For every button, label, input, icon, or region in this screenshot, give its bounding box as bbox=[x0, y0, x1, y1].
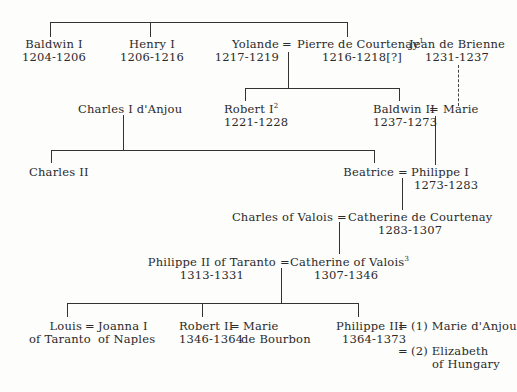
marriage-sign: = bbox=[282, 38, 292, 51]
line-valois-courtenay-child bbox=[339, 222, 340, 254]
person-charles2: Charles II bbox=[29, 166, 89, 179]
line-robert2 bbox=[202, 303, 203, 317]
person-henry1: Henry I 1206-1216 bbox=[120, 38, 184, 64]
person-marie-bourbon: Marie de Bourbon bbox=[243, 320, 311, 346]
marriage-sign: = bbox=[398, 166, 408, 179]
person-robert1: Robert I2 1221-1228 bbox=[224, 103, 288, 129]
line-louis bbox=[67, 303, 68, 317]
line-gen1-siblings bbox=[50, 22, 348, 23]
person-baldwin2: Baldwin II 1237-1273 bbox=[373, 103, 437, 129]
line-philippe2-children bbox=[281, 268, 282, 303]
person-yolande: Yolande 1217-1219 bbox=[215, 38, 279, 64]
line-charles1-children-bar bbox=[51, 150, 375, 151]
person-joanna: Joanna I of Naples bbox=[98, 320, 155, 346]
person-pierre: Pierre de Courtenay1 1216-1218[?] bbox=[297, 38, 424, 64]
line-beatrice bbox=[374, 150, 375, 163]
line-yolande bbox=[347, 22, 348, 37]
line-beatrice-philippe-child bbox=[402, 178, 403, 210]
line-jean-marie-dashed bbox=[458, 65, 459, 106]
person-jean: Jean de Brienne 1231-1237 bbox=[409, 38, 505, 64]
person-charles-valois: Charles of Valois bbox=[232, 211, 333, 224]
person-beatrice: Beatrice bbox=[343, 166, 394, 179]
person-marie: Marie bbox=[443, 103, 479, 116]
person-catherine-courtenay: Catherine de Courtenay 1283-1307 bbox=[348, 211, 493, 237]
line-charles2 bbox=[51, 150, 52, 163]
line-yolande-pierre-children bbox=[288, 52, 289, 88]
marriage-sign: = bbox=[398, 345, 408, 358]
person-louis: Louis of Taranto bbox=[29, 320, 82, 346]
marriage-sign: = bbox=[398, 320, 408, 333]
line-philippe3 bbox=[358, 303, 359, 317]
line-philippe2-children-bar bbox=[67, 303, 359, 304]
person-catherine-valois: Catherine of Valois3 1307-1346 bbox=[290, 256, 409, 282]
line-robert1 bbox=[245, 88, 246, 101]
marriage-sign: = bbox=[230, 320, 240, 333]
marriage-sign: = bbox=[337, 211, 347, 224]
person-charles1: Charles I d'Anjou bbox=[78, 103, 182, 116]
marriage-sign: = bbox=[85, 320, 95, 333]
line-baldwin2 bbox=[399, 88, 400, 101]
marriage-sign: = bbox=[280, 256, 290, 269]
line-baldwin1 bbox=[50, 22, 51, 37]
line-charles1-children bbox=[123, 115, 124, 150]
line-yolande-children bbox=[245, 88, 400, 89]
person-baldwin1: Baldwin I 1204-1206 bbox=[22, 38, 86, 64]
person-philippe3: Philippe III 1364-1373 bbox=[336, 320, 406, 346]
marriage-sign: = bbox=[429, 103, 439, 116]
line-henry1 bbox=[150, 22, 151, 37]
person-marie-anjou: (1) Marie d'Anjou bbox=[411, 320, 517, 333]
person-philippe2: Philippe II of Taranto 1313-1331 bbox=[148, 256, 276, 282]
person-philippe1: Philippe I 1273-1283 bbox=[411, 166, 478, 192]
person-elizabeth: (2) Elizabeth of Hungary bbox=[411, 345, 500, 371]
